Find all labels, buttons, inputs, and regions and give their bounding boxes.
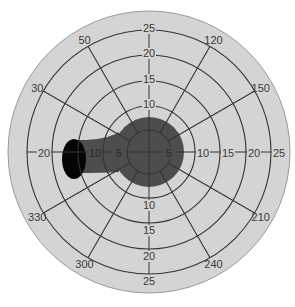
ring-label-left-10: 10 bbox=[89, 147, 101, 159]
ring-label-right-5: 5 bbox=[166, 147, 172, 159]
ring-label-right-10: 10 bbox=[197, 147, 209, 159]
ring-label-top-15: 15 bbox=[143, 73, 155, 85]
meridian-label-50: 50 bbox=[78, 34, 90, 46]
ring-label-bottom-25: 25 bbox=[143, 275, 155, 287]
ring-label-left-20: 20 bbox=[38, 147, 50, 159]
ring-label-right-15: 15 bbox=[222, 147, 234, 159]
blind-spot bbox=[62, 139, 86, 179]
meridian-label-150: 150 bbox=[252, 82, 270, 94]
meridian-label-330: 330 bbox=[28, 211, 46, 223]
polar-chart-svg: 1201502102403003303050101520251015202551… bbox=[0, 0, 295, 307]
ring-label-right-25: 25 bbox=[273, 147, 285, 159]
meridian-label-30: 30 bbox=[31, 82, 43, 94]
ring-label-right-20: 20 bbox=[248, 147, 260, 159]
ring-label-top-25: 25 bbox=[143, 22, 155, 34]
ring-label-bottom-15: 15 bbox=[143, 224, 155, 236]
ring-label-top-20: 20 bbox=[143, 47, 155, 59]
ring-label-top-10: 10 bbox=[143, 98, 155, 110]
ring-label-left-5: 5 bbox=[116, 147, 122, 159]
visual-field-chart: 1201502102403003303050101520251015202551… bbox=[0, 0, 295, 307]
meridian-label-240: 240 bbox=[204, 258, 222, 270]
meridian-label-300: 300 bbox=[75, 258, 93, 270]
ring-label-bottom-20: 20 bbox=[143, 250, 155, 262]
meridian-label-210: 210 bbox=[252, 211, 270, 223]
ring-label-bottom-10: 10 bbox=[143, 199, 155, 211]
meridian-label-120: 120 bbox=[204, 34, 222, 46]
